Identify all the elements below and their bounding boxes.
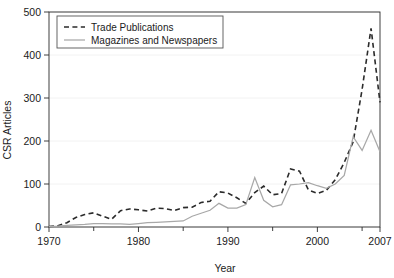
x-tick-label-1980: 1980 [127, 235, 151, 247]
y-tick-label-0: 0 [35, 221, 41, 233]
y-tick-labels: 0100200300400500 [23, 6, 41, 233]
data-series-layer [49, 28, 380, 226]
chart-legend: Trade PublicationsMagazines and Newspape… [57, 16, 223, 48]
x-axis-title: Year [214, 262, 236, 274]
legend-label-trade-publications: Trade Publications [91, 22, 173, 33]
x-tick-label-1970: 1970 [37, 235, 61, 247]
series-line-magazines-and-newspapers [49, 130, 380, 226]
y-tick-label-100: 100 [23, 178, 41, 190]
x-tick-labels: 19701980199020002007 [37, 235, 392, 247]
y-tick-label-400: 400 [23, 49, 41, 61]
series-line-trade-publications [49, 28, 380, 226]
y-tick-label-200: 200 [23, 135, 41, 147]
y-tick-label-300: 300 [23, 92, 41, 104]
legend-label-magazines-and-newspapers: Magazines and Newspapers [91, 35, 217, 46]
y-tick-label-500: 500 [23, 6, 41, 18]
x-tick-label-1990: 1990 [216, 235, 240, 247]
y-axis-title: CSR Articles [1, 101, 13, 160]
line-chart: 19701980199020002007 0100200300400500 Ye… [0, 0, 394, 278]
chart-figure: 19701980199020002007 0100200300400500 Ye… [0, 0, 394, 278]
x-tick-label-2007: 2007 [368, 235, 392, 247]
x-tick-label-2000: 2000 [306, 235, 330, 247]
